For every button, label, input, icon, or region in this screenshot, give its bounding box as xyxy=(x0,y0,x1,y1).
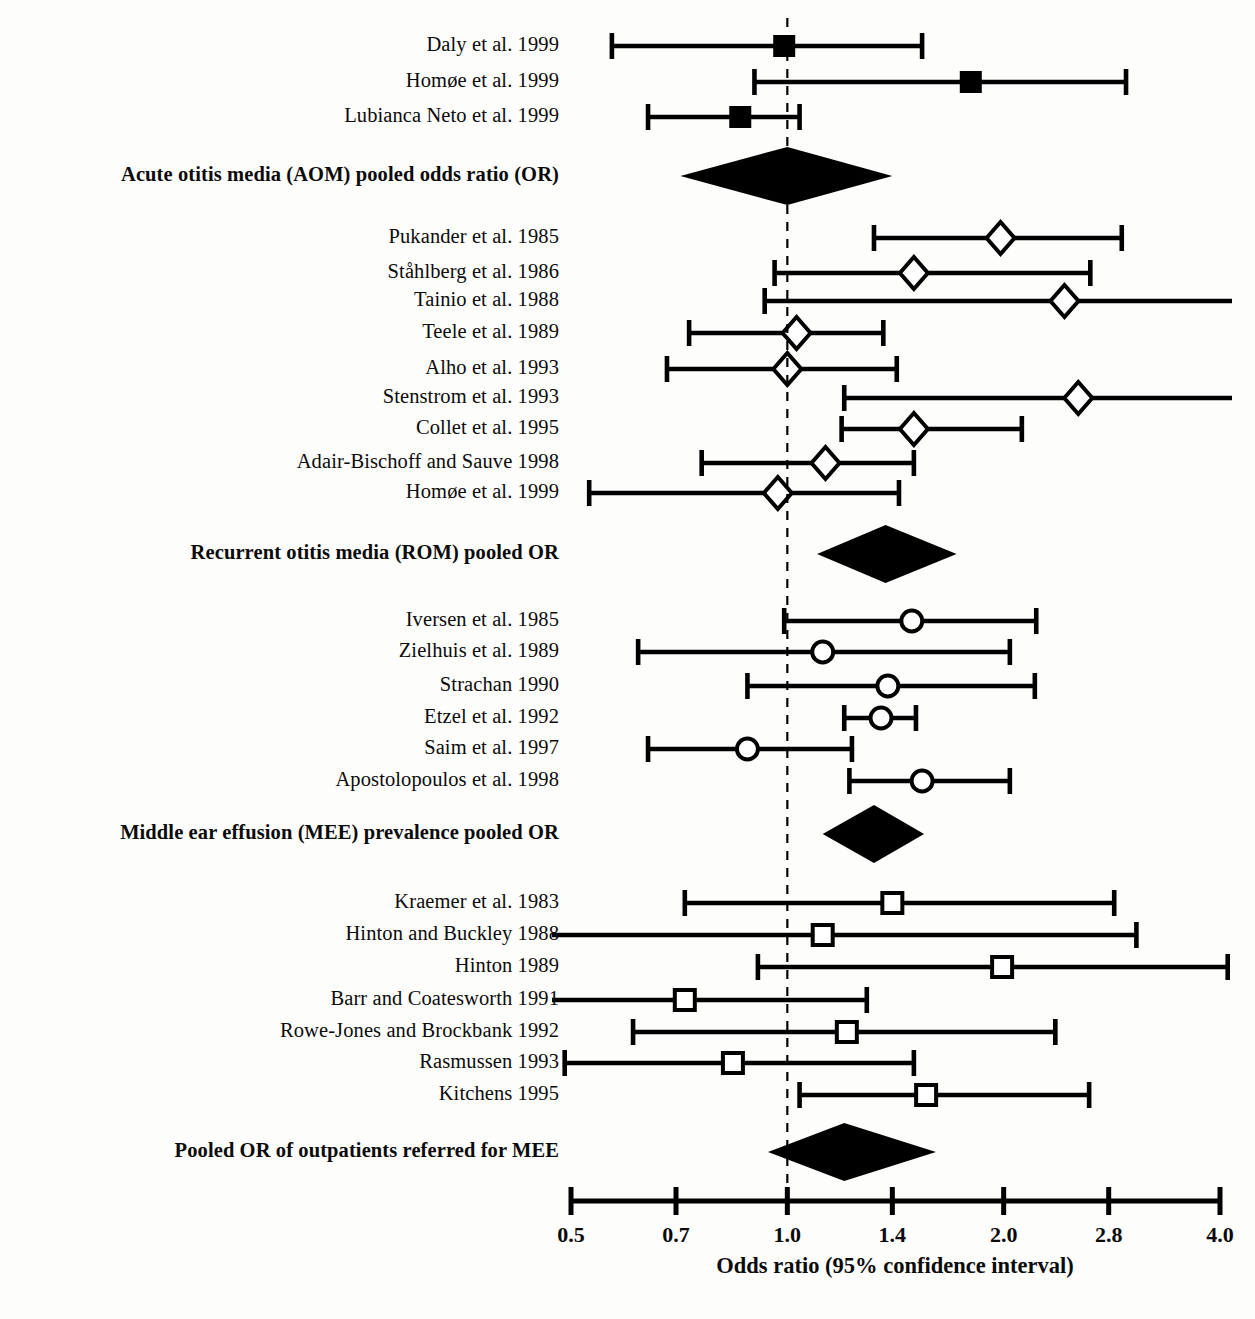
study-estimate xyxy=(689,317,883,349)
point-estimate-open-square xyxy=(837,1022,857,1042)
point-estimate-filled-square xyxy=(960,71,982,93)
pooled-row-label: Recurrent otitis media (ROM) pooled OR xyxy=(191,541,559,563)
study-row-label: Ståhlberg et al. 1986 xyxy=(388,260,559,282)
study-estimate xyxy=(758,954,1228,980)
study-row-label: Alho et al. 1993 xyxy=(425,356,559,378)
study-row-label: Kitchens 1995 xyxy=(439,1082,559,1104)
axis-tick-label: 1.4 xyxy=(857,1222,927,1248)
study-row-label: Teele et al. 1989 xyxy=(422,320,559,342)
point-estimate-open-square xyxy=(813,925,833,945)
study-row-label: Rasmussen 1993 xyxy=(419,1050,559,1072)
axis-tick-label: 4.0 xyxy=(1185,1222,1255,1248)
study-row-label: Homøe et al. 1999 xyxy=(406,480,559,502)
study-row-label: Daly et al. 1999 xyxy=(426,33,559,55)
pooled-row-label: Middle ear effusion (MEE) prevalence poo… xyxy=(120,821,559,843)
pooled-diamond xyxy=(768,1123,936,1181)
study-row-label: Etzel et al. 1992 xyxy=(424,705,559,727)
study-row-label: Zielhuis et al. 1989 xyxy=(399,639,559,661)
point-estimate-filled-square xyxy=(729,106,751,128)
point-estimate-open-circle xyxy=(737,739,758,760)
study-estimate xyxy=(612,33,922,59)
axis-title: Odds ratio (95% confidence interval) xyxy=(545,1253,1245,1279)
point-estimate-open-diamond xyxy=(811,447,839,479)
study-row-label: Iversen et al. 1985 xyxy=(406,608,559,630)
study-estimate xyxy=(775,257,1091,289)
study-row-label: Barr and Coatesworth 1991 xyxy=(330,987,559,1009)
point-estimate-open-circle xyxy=(812,642,833,663)
pooled-row-label: Acute otitis media (AOM) pooled odds rat… xyxy=(121,163,559,185)
study-estimate xyxy=(844,705,916,731)
study-row-label: Adair-Bischoff and Sauve 1998 xyxy=(297,450,559,472)
point-estimate-open-diamond xyxy=(900,413,928,445)
pooled-estimate xyxy=(817,525,957,583)
study-estimate xyxy=(552,987,867,1013)
point-estimate-filled-square xyxy=(773,35,795,57)
study-estimate xyxy=(638,639,1010,665)
study-row-label: Lubianca Neto et al. 1999 xyxy=(344,104,559,126)
study-row-label: Strachan 1990 xyxy=(440,673,559,695)
axis-layer xyxy=(571,1187,1220,1215)
study-row-label: Stenstrom et al. 1993 xyxy=(383,385,559,407)
axis-tick-label: 0.5 xyxy=(536,1222,606,1248)
point-estimate-open-circle xyxy=(877,676,898,697)
point-estimate-open-diamond xyxy=(1050,285,1078,317)
study-row-label: Pukander et al. 1985 xyxy=(388,225,559,247)
point-estimate-open-square xyxy=(675,990,695,1010)
study-estimate xyxy=(800,1082,1090,1108)
study-row-label: Homøe et al. 1999 xyxy=(406,69,559,91)
study-estimate xyxy=(754,69,1126,95)
study-estimate xyxy=(747,673,1034,699)
point-estimate-open-diamond xyxy=(900,257,928,289)
study-estimate xyxy=(685,890,1114,916)
point-estimate-open-circle xyxy=(870,708,891,729)
study-estimate xyxy=(874,222,1122,254)
study-estimate xyxy=(648,736,852,762)
confidence-interval-layer xyxy=(552,33,1232,1181)
study-estimate xyxy=(849,768,1009,794)
axis-tick-label: 2.8 xyxy=(1074,1222,1144,1248)
point-estimate-open-circle xyxy=(912,771,933,792)
point-estimate-open-diamond xyxy=(1064,382,1092,414)
study-estimate xyxy=(565,1050,914,1076)
study-row-label: Apostolopoulos et al. 1998 xyxy=(335,768,559,790)
study-row-label: Kraemer et al. 1983 xyxy=(394,890,559,912)
pooled-estimate xyxy=(768,1123,936,1181)
study-row-label: Rowe-Jones and Brockbank 1992 xyxy=(280,1019,559,1041)
point-estimate-open-square xyxy=(916,1085,936,1105)
point-estimate-open-circle xyxy=(901,611,922,632)
point-estimate-open-square xyxy=(992,957,1012,977)
axis-tick-label: 0.7 xyxy=(641,1222,711,1248)
study-row-label: Saim et al. 1997 xyxy=(424,736,559,758)
study-estimate xyxy=(667,353,897,385)
study-row-label: Tainio et al. 1988 xyxy=(414,288,559,310)
point-estimate-open-square xyxy=(723,1053,743,1073)
study-estimate xyxy=(589,477,899,509)
pooled-row-label: Pooled OR of outpatients referred for ME… xyxy=(175,1139,559,1161)
study-row-label: Collet et al. 1995 xyxy=(416,416,559,438)
study-estimate xyxy=(844,382,1232,414)
pooled-diamond xyxy=(823,805,924,863)
study-estimate xyxy=(784,608,1036,634)
study-estimate xyxy=(842,413,1022,445)
study-estimate xyxy=(702,447,914,479)
pooled-estimate xyxy=(823,805,924,863)
study-row-label: Hinton 1989 xyxy=(455,954,559,976)
point-estimate-open-square xyxy=(882,893,902,913)
study-estimate xyxy=(765,285,1232,317)
study-row-label: Hinton and Buckley 1988 xyxy=(345,922,559,944)
axis-tick-label: 2.0 xyxy=(969,1222,1039,1248)
point-estimate-open-diamond xyxy=(987,222,1015,254)
study-estimate xyxy=(552,922,1136,948)
forest-plot-canvas xyxy=(0,0,1255,1319)
study-estimate xyxy=(648,104,800,130)
study-estimate xyxy=(633,1019,1055,1045)
axis-tick-label: 1.0 xyxy=(752,1222,822,1248)
pooled-diamond xyxy=(817,525,957,583)
